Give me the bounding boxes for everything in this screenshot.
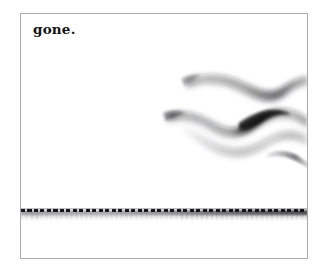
wave-left-wisp-middle (163, 111, 186, 121)
wave-left-wisp-upper (181, 75, 201, 85)
wave-band-middle (165, 109, 308, 136)
caption-text: gone. (33, 23, 76, 37)
wave-band-upper-halo (187, 76, 308, 102)
wave-field (139, 62, 308, 162)
baseline-speckle (21, 213, 308, 219)
wave-crest-accent (239, 110, 291, 130)
dashed-horizon-line (21, 204, 308, 226)
plate-frame: gone. (20, 13, 308, 259)
baseline-dashes (21, 209, 308, 212)
artwork-canvas: gone. (0, 0, 324, 276)
wave-field-svg (139, 62, 308, 162)
wave-band-middle-halo (167, 111, 308, 139)
wave-band-upper (183, 74, 308, 101)
wave-tail-wisp (265, 151, 308, 168)
wave-band-lower (179, 126, 308, 156)
